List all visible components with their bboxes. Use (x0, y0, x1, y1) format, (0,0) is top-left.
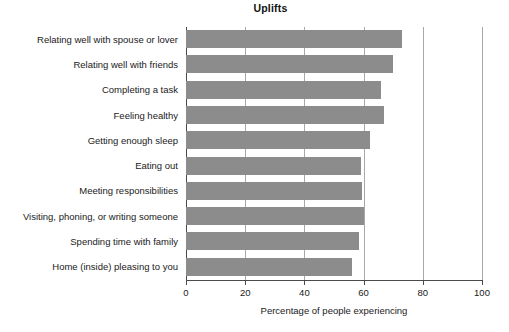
bar-row (186, 154, 482, 179)
x-tick-mark (186, 280, 187, 285)
x-tick-mark (245, 280, 246, 285)
y-axis-label: Feeling healthy (0, 110, 178, 121)
bar (186, 106, 384, 124)
y-axis-label: Spending time with family (0, 236, 178, 247)
bar-row (186, 204, 482, 229)
y-axis-label: Relating well with spouse or lover (0, 34, 178, 45)
x-tick-label: 80 (403, 287, 443, 298)
bar (186, 81, 381, 99)
x-tick-mark (482, 280, 483, 285)
x-tick-label: 100 (462, 287, 502, 298)
bar-row (186, 52, 482, 77)
bar (186, 182, 362, 200)
x-axis-title: Percentage of people experiencing (186, 305, 482, 316)
bar-row (186, 103, 482, 128)
y-axis-label: Completing a task (0, 84, 178, 95)
chart-figure: Uplifts Relating well with spouse or lov… (0, 0, 509, 332)
bar (186, 30, 402, 48)
y-axis-label: Home (inside) pleasing to you (0, 261, 178, 272)
bar-row (186, 128, 482, 153)
y-axis-label: Meeting responsibilities (0, 185, 178, 196)
x-tick-mark (364, 280, 365, 285)
y-axis-label: Eating out (0, 160, 178, 171)
y-axis-label: Getting enough sleep (0, 135, 178, 146)
bar-row (186, 78, 482, 103)
gridline-100 (482, 27, 483, 280)
bar (186, 55, 393, 73)
y-axis-label: Visiting, phoning, or writing someone (0, 211, 178, 222)
bar-row (186, 27, 482, 52)
bar (186, 131, 370, 149)
x-tick-label: 60 (344, 287, 384, 298)
x-tick-label: 20 (225, 287, 265, 298)
plot-area (186, 27, 482, 280)
bar (186, 207, 364, 225)
chart-title: Uplifts (0, 2, 509, 14)
bar-row (186, 255, 482, 280)
y-axis-label: Relating well with friends (0, 59, 178, 70)
x-tick-label: 40 (284, 287, 324, 298)
x-tick-mark (423, 280, 424, 285)
bar-row (186, 229, 482, 254)
x-tick-label: 0 (166, 287, 206, 298)
bar (186, 232, 359, 250)
x-axis-line (186, 280, 483, 281)
bar (186, 157, 361, 175)
x-tick-mark (304, 280, 305, 285)
bar-row (186, 179, 482, 204)
bar (186, 258, 352, 276)
